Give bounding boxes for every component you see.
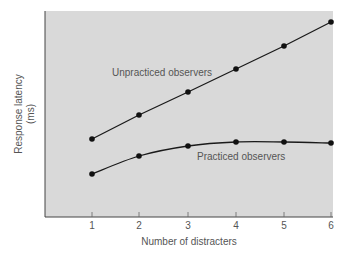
data-point: [185, 143, 191, 149]
data-point: [328, 140, 334, 146]
data-point: [233, 139, 239, 145]
x-tick-label: 2: [136, 220, 142, 231]
y-axis-title: Response latency (ms): [13, 74, 36, 154]
y-axis-title-unit: (ms): [25, 104, 36, 124]
x-tick-label: 6: [328, 220, 334, 231]
line-chart: 123456 Unpracticed observersPracticed ob…: [0, 0, 352, 256]
data-point: [281, 139, 287, 145]
data-point: [328, 19, 334, 25]
x-tick-label: 3: [185, 220, 191, 231]
data-point: [233, 66, 239, 72]
data-point: [185, 89, 191, 95]
data-point: [136, 112, 142, 118]
data-point: [136, 153, 142, 159]
x-axis-title: Number of distracters: [141, 236, 237, 247]
x-tick-label: 4: [233, 220, 239, 231]
series-label: Practiced observers: [197, 151, 285, 162]
data-point: [281, 43, 287, 49]
x-tick-label: 1: [89, 220, 95, 231]
series-label: Unpracticed observers: [112, 67, 212, 78]
data-point: [89, 171, 95, 177]
x-tick-label: 5: [281, 220, 287, 231]
plot-area: [45, 11, 333, 217]
data-point: [89, 136, 95, 142]
y-axis-title-main: Response latency: [13, 74, 24, 154]
